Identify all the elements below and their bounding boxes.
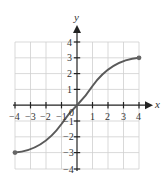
x-tick-label: 3 [121,111,126,122]
y-tick-label: −2 [63,131,74,142]
x-axis [13,102,148,108]
y-tick-label: 4 [67,37,72,48]
endpoint-right [137,55,142,60]
x-axis-arrow-icon [145,101,153,109]
x-tick-label: −4 [9,111,20,122]
x-tick-label: −3 [25,111,36,122]
x-tick-label: 4 [136,111,141,122]
y-tick-label: 1 [67,84,72,95]
y-axis [74,30,80,171]
x-tick-label: 1 [90,111,95,122]
endpoint-left [13,150,18,155]
graph: x y −4 −3 −2 −1 0 1 2 3 4 4 3 2 1 −1 −2 … [0,0,167,178]
y-tick-label: 3 [67,52,72,63]
y-tick-label: 2 [67,68,72,79]
x-tick-label: 2 [105,111,110,122]
y-axis-label: y [73,11,79,23]
x-tick-labels: −4 −3 −2 −1 0 1 2 3 4 [9,107,141,122]
y-tick-label: −4 [63,164,74,175]
x-axis-label: x [154,98,160,110]
x-tick-label: −2 [40,111,51,122]
y-axis-arrow-icon [73,25,81,33]
y-tick-label: −1 [63,116,74,127]
y-tick-label: −3 [63,147,74,158]
